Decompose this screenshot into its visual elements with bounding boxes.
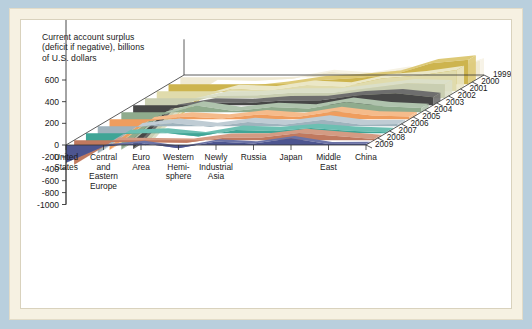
chart-card: Current account surplus (deficit if nega… bbox=[20, 19, 512, 309]
x-axis-category-label: China bbox=[336, 153, 396, 163]
y-axis-tick-label: 200 bbox=[45, 118, 60, 128]
y-axis-tick-label: -600 bbox=[42, 176, 59, 186]
y-axis-tick-label: -1000 bbox=[37, 200, 59, 210]
y-axis-tick-label: 0 bbox=[54, 140, 59, 150]
y-axis-tick-label: -800 bbox=[42, 188, 59, 198]
y-axis-tick-label: 600 bbox=[45, 75, 60, 85]
figure-background: Current account surplus (deficit if nega… bbox=[0, 0, 532, 329]
z-axis-year-label: 2009 bbox=[375, 140, 393, 149]
y-axis-tick-label: 400 bbox=[45, 97, 60, 107]
figure-mat-border: Current account surplus (deficit if nega… bbox=[9, 8, 523, 320]
